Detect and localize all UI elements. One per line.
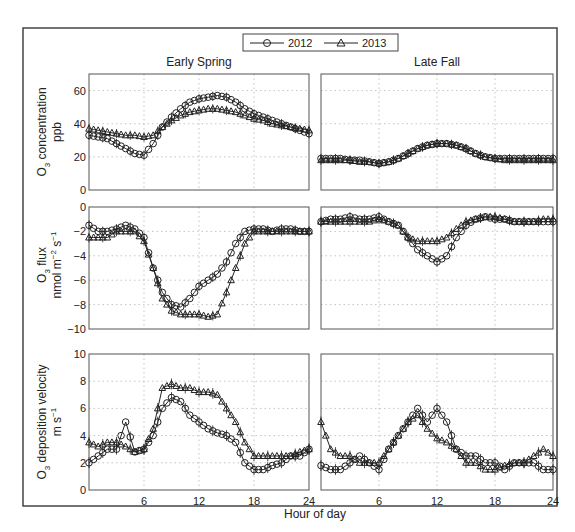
panel-row3-early-spring: 02468106121824 (74, 348, 315, 507)
svg-text:−6: −6 (73, 274, 86, 286)
svg-text:nmol m−2 s−1: nmol m−2 s−1 (49, 231, 64, 298)
svg-text:0: 0 (80, 201, 86, 213)
svg-text:12: 12 (431, 495, 443, 507)
svg-text:18: 18 (248, 495, 260, 507)
panel-row2-early-spring: −10−8−6−4−20 (67, 201, 312, 335)
svg-text:−4: −4 (73, 250, 86, 262)
y-label-row2: O3 flux nmol m−2 s−1 (35, 231, 64, 298)
svg-text:10: 10 (74, 348, 86, 360)
svg-text:18: 18 (489, 495, 501, 507)
svg-text:6: 6 (376, 495, 382, 507)
column-title-late-fall: Late Fall (414, 55, 460, 69)
x-axis-label: Hour of day (284, 507, 346, 521)
legend-label-2013: 2013 (362, 37, 386, 49)
svg-text:m s−1: m s−1 (49, 407, 64, 436)
svg-text:6: 6 (141, 495, 147, 507)
outer-frame (23, 28, 557, 506)
svg-text:0: 0 (80, 184, 86, 196)
figure: 2012 2013 Early Spring Late Fall O3 conc… (0, 0, 575, 532)
panels: 0204060−10−8−6−4−20024681061218246121824 (67, 74, 559, 507)
panel-row1-late-fall (318, 74, 557, 190)
svg-text:8: 8 (80, 375, 86, 387)
svg-text:6: 6 (80, 402, 86, 414)
panel-row1-early-spring: 0204060 (74, 74, 313, 196)
svg-text:40: 40 (74, 118, 86, 130)
column-title-early-spring: Early Spring (166, 55, 231, 69)
y-label-row3: O3 deposition velocity m s−1 (35, 364, 64, 479)
svg-text:12: 12 (193, 495, 205, 507)
svg-text:ppb: ppb (50, 122, 64, 142)
svg-text:0: 0 (80, 484, 86, 496)
panel-row3-late-fall: 6121824 (318, 354, 559, 507)
svg-text:−8: −8 (73, 299, 86, 311)
y-label-row1: O3 concentration ppb (35, 87, 64, 176)
svg-text:−10: −10 (67, 323, 86, 335)
legend-label-2012: 2012 (288, 37, 312, 49)
legend: 2012 2013 (243, 34, 398, 51)
panel-row2-late-fall (318, 207, 557, 329)
svg-text:24: 24 (303, 495, 315, 507)
svg-text:24: 24 (547, 495, 559, 507)
svg-text:2: 2 (80, 457, 86, 469)
svg-text:−2: −2 (73, 225, 86, 237)
svg-text:60: 60 (74, 85, 86, 97)
svg-text:4: 4 (80, 430, 86, 442)
svg-text:20: 20 (74, 151, 86, 163)
